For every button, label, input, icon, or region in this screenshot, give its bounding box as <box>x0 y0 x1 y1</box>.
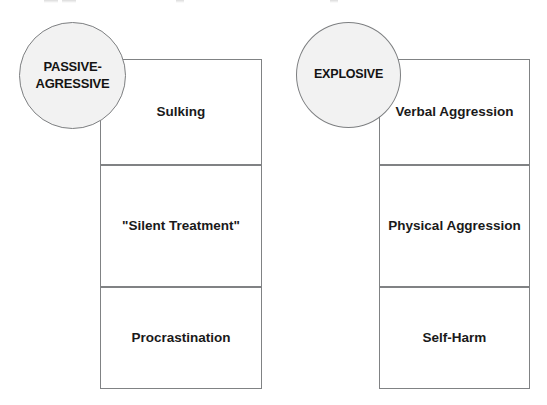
category-column-explosive: Verbal Aggression Physical Aggression Se… <box>379 59 530 389</box>
category-item-verbal-aggression: Verbal Aggression <box>380 60 529 164</box>
category-item-procrastination: Procrastination <box>101 286 261 387</box>
clipped-text-artifact <box>0 0 547 4</box>
category-item-silent-treatment: "Silent Treatment" <box>101 164 261 286</box>
aggression-types-diagram: Sulking "Silent Treatment" Procrastinati… <box>0 0 547 405</box>
category-circle-explosive: EXPLOSIVE <box>296 22 401 128</box>
category-item-self-harm: Self-Harm <box>380 286 529 387</box>
category-circle-label-explosive: EXPLOSIVE <box>314 67 383 83</box>
category-circle-label-passive-aggressive: PASSIVE- AGRESSIVE <box>35 59 109 92</box>
category-column-passive-aggressive: Sulking "Silent Treatment" Procrastinati… <box>100 59 262 389</box>
category-circle-passive-aggressive: PASSIVE- AGRESSIVE <box>19 22 126 129</box>
category-item-physical-aggression: Physical Aggression <box>380 164 529 286</box>
